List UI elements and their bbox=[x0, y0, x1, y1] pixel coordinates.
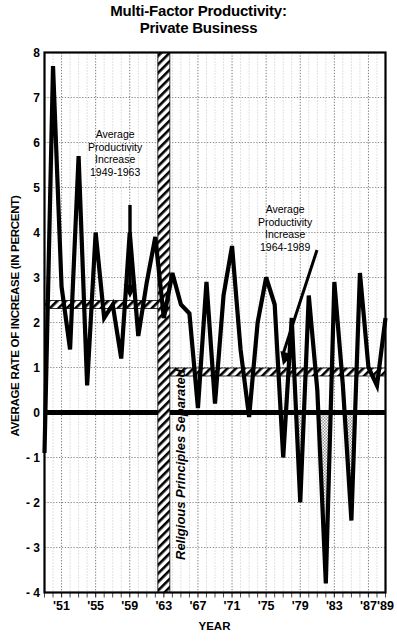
negative-shading bbox=[45, 413, 356, 584]
annotation-line: Productivity bbox=[88, 141, 142, 154]
plot-area bbox=[0, 0, 397, 641]
annotation-1964-1989: AverageProductivityIncrease1964-1989 bbox=[258, 203, 312, 253]
annotation-line: 1949-1963 bbox=[88, 166, 142, 179]
annotation-1949-1963: AverageProductivityIncrease1949-1963 bbox=[88, 128, 142, 178]
chart-figure: Multi-Factor Productivity: Private Busin… bbox=[0, 0, 397, 641]
annotation-line: Increase bbox=[88, 153, 142, 166]
divider-band bbox=[158, 53, 170, 593]
annotation-line: Average bbox=[88, 128, 142, 141]
annotation-line: 1964-1989 bbox=[258, 241, 312, 254]
annotation-line: Average bbox=[258, 203, 312, 216]
annotation-line: Productivity bbox=[258, 216, 312, 229]
divider-label: Religious Principles Separated bbox=[173, 369, 188, 560]
annotation-line: Increase bbox=[258, 228, 312, 241]
